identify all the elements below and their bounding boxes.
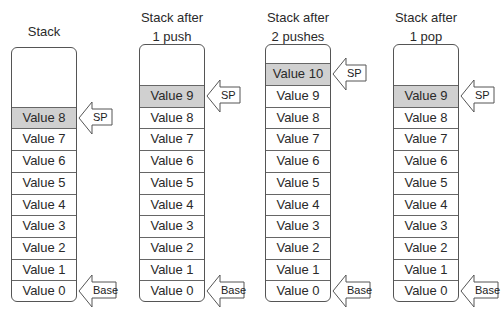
stack-row: Value 3 (394, 215, 458, 237)
stack-row: Value 3 (140, 215, 204, 237)
stack-title: Stack after 2 pushes (245, 8, 351, 46)
stack-row: Value 4 (12, 194, 76, 216)
stack-row: Value 8 (266, 107, 330, 129)
stack-row: Value 1 (394, 259, 458, 281)
base-pointer-arrow: Base (78, 274, 118, 308)
stack-row: Value 1 (266, 259, 330, 281)
base-pointer-arrow: Base (206, 274, 246, 308)
stack-row: Value 0 (266, 280, 330, 302)
stack-row: Value 6 (12, 150, 76, 172)
sp-pointer-arrow-label: SP (93, 111, 108, 123)
stack-box: Value 8Value 7Value 6Value 5Value 4Value… (11, 47, 77, 302)
stack-row: Value 9 (266, 85, 330, 107)
stack-row: Value 0 (394, 280, 458, 302)
stack-row: Value 5 (394, 172, 458, 194)
sp-pointer-arrow-label: SP (347, 67, 362, 79)
base-pointer-arrow: Base (332, 274, 372, 308)
stack-box: Value 10Value 9Value 8Value 7Value 6Valu… (265, 44, 331, 302)
sp-pointer-arrow: SP (206, 79, 242, 113)
sp-pointer-arrow: SP (332, 57, 368, 91)
base-pointer-arrow-label: Base (347, 284, 372, 296)
sp-pointer-arrow-label: SP (475, 89, 490, 101)
stack-row: Value 7 (266, 128, 330, 150)
stack-row: Value 4 (140, 194, 204, 216)
stack-title: Stack after 1 push (119, 8, 225, 46)
base-pointer-arrow: Base (460, 274, 500, 308)
base-pointer-arrow-label: Base (93, 284, 118, 296)
stack-row: Value 7 (12, 128, 76, 150)
stack-row-top: Value 10 (266, 63, 330, 85)
stack-row-top: Value 9 (140, 85, 204, 107)
stack-row: Value 2 (12, 237, 76, 259)
stack-row: Value 6 (394, 150, 458, 172)
stack-row: Value 2 (394, 237, 458, 259)
stack-title: Stack after 1 pop (373, 8, 479, 46)
stack-row: Value 6 (266, 150, 330, 172)
stack-row: Value 6 (140, 150, 204, 172)
stack-row: Value 5 (140, 172, 204, 194)
stack-title: Stack (0, 22, 97, 41)
stack-row: Value 5 (12, 172, 76, 194)
stack-row: Value 4 (266, 194, 330, 216)
stack-row: Value 2 (266, 237, 330, 259)
stack-row: Value 7 (140, 128, 204, 150)
stack-box: Value 9Value 8Value 7Value 6Value 5Value… (139, 44, 205, 302)
stack-row: Value 1 (12, 259, 76, 281)
stack-box: Value 9Value 8Value 7Value 6Value 5Value… (393, 44, 459, 302)
stack-row: Value 8 (394, 107, 458, 129)
stack-row: Value 5 (266, 172, 330, 194)
stack-row: Value 3 (266, 215, 330, 237)
base-pointer-arrow-label: Base (221, 284, 246, 296)
sp-pointer-arrow: SP (78, 101, 114, 135)
stack-row: Value 2 (140, 237, 204, 259)
stack-row-top: Value 8 (12, 107, 76, 129)
stack-row: Value 0 (140, 280, 204, 302)
base-pointer-arrow-label: Base (475, 284, 500, 296)
stack-row: Value 4 (394, 194, 458, 216)
stack-row: Value 1 (140, 259, 204, 281)
stack-row: Value 0 (12, 280, 76, 302)
sp-pointer-arrow: SP (460, 79, 496, 113)
stack-row: Value 8 (140, 107, 204, 129)
stack-row: Value 7 (394, 128, 458, 150)
stack-row-top: Value 9 (394, 85, 458, 107)
sp-pointer-arrow-label: SP (221, 89, 236, 101)
stack-row: Value 3 (12, 215, 76, 237)
